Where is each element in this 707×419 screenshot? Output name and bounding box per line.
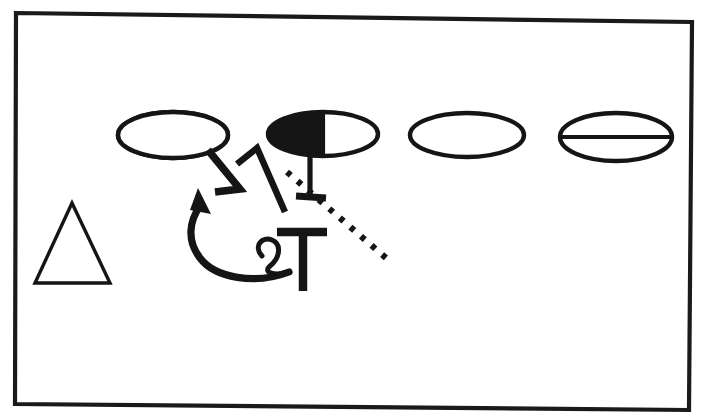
line-art-diagram (0, 0, 707, 419)
canvas-background (0, 0, 707, 419)
ellipse-4-bisected (560, 113, 672, 161)
figure-canvas (0, 0, 707, 419)
small-crossbar-terminal (296, 196, 326, 198)
ellipse-3-empty (410, 113, 524, 157)
